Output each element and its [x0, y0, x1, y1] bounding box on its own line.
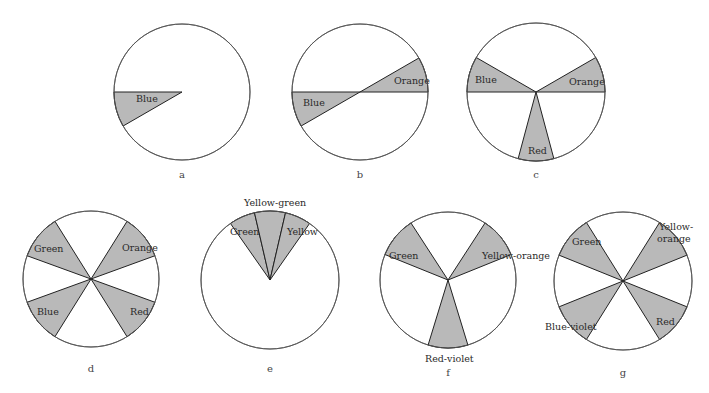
wedge-label: Orange [394, 75, 430, 86]
wedge-label: Red [656, 316, 675, 327]
panel-caption: c [533, 169, 539, 180]
panel-g: GreenYellow-Blue-violetRedorangeg [545, 212, 693, 378]
wedge-label: Blue [136, 93, 158, 104]
panel-caption: e [267, 363, 273, 374]
wedge-label: Blue [475, 74, 497, 85]
wedge-label: Orange [569, 76, 605, 87]
panel-caption: d [88, 363, 95, 374]
panel-f: GreenYellow-orangeRed-violetf [380, 212, 550, 378]
wedge-label: Yellow [286, 226, 318, 237]
panel-e: GreenYellow-greenYellowe [201, 197, 339, 374]
panel-caption: b [357, 169, 363, 180]
panel-caption: a [179, 169, 185, 180]
panel-caption: f [446, 367, 451, 378]
wedge-label: Green [34, 243, 64, 254]
wedge-label: Green [230, 226, 260, 237]
panel-b: BlueOrangeb [292, 24, 430, 180]
wedge-label: Green [389, 250, 419, 261]
wedge-label: Red-violet [425, 353, 474, 364]
wedge-label: Yellow- [658, 221, 693, 232]
panel-a: Bluea [114, 24, 250, 180]
color-wheel-figure: BlueaBlueOrangebBlueOrangeRedcGreenOrang… [0, 0, 709, 393]
wedge-label: Yellow-orange [481, 250, 550, 261]
wedge-label: Red [130, 306, 149, 317]
wedge-label: Blue [37, 306, 59, 317]
wedge-label: Green [572, 236, 602, 247]
panel-c: BlueOrangeRedc [467, 23, 605, 180]
wedge-label: Blue [303, 97, 325, 108]
panel-d: GreenOrangeBlueRedd [23, 211, 159, 374]
wedge-label-continuation: orange [657, 233, 691, 244]
wedge-label: Yellow-green [243, 197, 306, 208]
panel-caption: g [620, 367, 627, 378]
wedge-label: Red [528, 145, 547, 156]
